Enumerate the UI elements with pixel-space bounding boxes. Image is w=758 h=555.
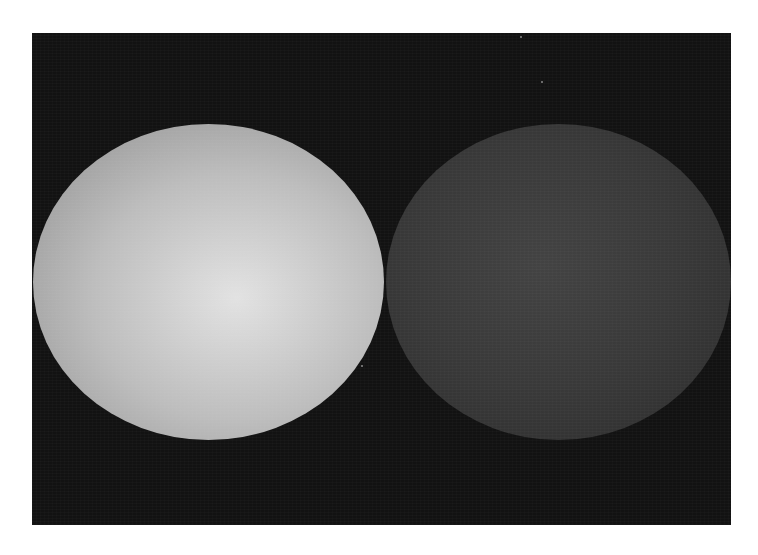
dust-speck (520, 36, 522, 38)
bright-sphere (33, 124, 384, 440)
dark-sphere (386, 124, 731, 440)
dust-speck (361, 365, 363, 367)
image-frame (32, 33, 731, 525)
dust-speck (541, 81, 543, 83)
